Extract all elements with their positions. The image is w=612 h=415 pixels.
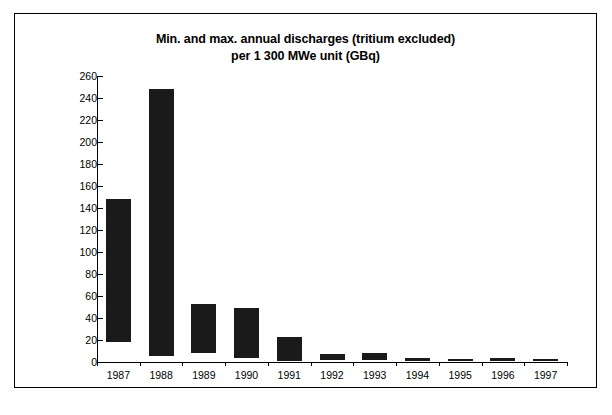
y-axis-tick-labels: 020406080100120140160180200220240260 bbox=[51, 14, 97, 415]
y-axis-tick-label: 100 bbox=[57, 246, 97, 258]
x-axis-tick-label-1990: 1990 bbox=[217, 369, 277, 381]
x-axis-tick-label-1994: 1994 bbox=[387, 369, 447, 381]
x-axis-tick-label-1997: 1997 bbox=[516, 369, 576, 381]
y-axis-tick-label: 220 bbox=[57, 114, 97, 126]
x-axis-tick-label-1988: 1988 bbox=[131, 369, 191, 381]
y-axis-tick-mark bbox=[98, 362, 103, 363]
x-axis-tick-label-1995: 1995 bbox=[430, 369, 490, 381]
x-axis-line bbox=[97, 362, 568, 363]
y-axis-tick-label: 120 bbox=[57, 224, 97, 236]
y-axis-tick-label: 20 bbox=[57, 334, 97, 346]
y-axis-tick-label: 240 bbox=[57, 92, 97, 104]
y-axis-tick-label: 80 bbox=[57, 268, 97, 280]
y-axis-tick-label: 200 bbox=[57, 136, 97, 148]
x-axis-tick-label-1992: 1992 bbox=[302, 369, 362, 381]
y-axis-tick-label: 140 bbox=[57, 202, 97, 214]
y-axis-tick-label: 260 bbox=[57, 70, 97, 82]
x-axis-tick-label-1996: 1996 bbox=[473, 369, 533, 381]
plot-area bbox=[97, 76, 567, 362]
chart-title-line-1: Min. and max. annual discharges (tritium… bbox=[156, 32, 455, 46]
x-axis-tick-label-1989: 1989 bbox=[174, 369, 234, 381]
y-axis-tick-label: 40 bbox=[57, 312, 97, 324]
y-axis-tick-label: 160 bbox=[57, 180, 97, 192]
x-axis-tick-label-1991: 1991 bbox=[259, 369, 319, 381]
chart-frame: Min. and max. annual discharges (tritium… bbox=[14, 13, 597, 388]
y-axis-tick-label: 0 bbox=[57, 356, 97, 368]
y-axis-tick-label: 180 bbox=[57, 158, 97, 170]
y-axis-tick-label: 60 bbox=[57, 290, 97, 302]
x-axis-tick-label-1993: 1993 bbox=[345, 369, 405, 381]
